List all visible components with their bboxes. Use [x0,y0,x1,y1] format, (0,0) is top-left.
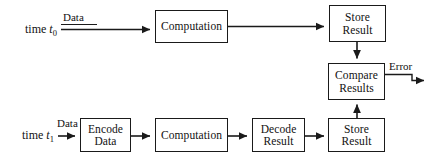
node-compare-results-label-2: Results [339,82,374,95]
label-time-t0-sub: 0 [53,28,57,38]
label-error-text: Error [389,60,412,72]
node-bottom-computation: Computation [155,118,228,152]
node-compare-results-label-1: Compare [335,69,378,82]
flow-diagram: Computation --> Store Result --> Compare… [0,0,433,165]
node-bottom-computation-label: Computation [161,129,222,142]
node-decode-result: Decode Result [252,118,305,152]
node-decode-result-label-1: Decode [261,123,297,136]
node-top-store-result-label-1: Store [345,11,370,24]
node-top-computation: Computation [155,10,228,43]
node-top-computation-label: Computation [161,20,222,33]
label-data-bottom: Data [57,117,78,129]
label-time-t1-prefix: time [22,128,46,142]
node-compare-results: Compare Results [328,63,385,100]
node-encode-data: Encode Data [80,118,131,152]
label-error: Error [389,60,412,72]
node-top-store-result-label-2: Result [343,24,373,37]
node-decode-result-label-2: Result [264,135,294,148]
node-bottom-store-result-label-1: Store [344,123,369,136]
label-data-bottom-text: Data [57,117,78,129]
node-top-store-result: Store Result [329,5,386,42]
label-time-t1-sub: 1 [50,134,54,144]
node-encode-data-label-2: Data [94,135,116,148]
label-time-t0-prefix: time [25,22,49,36]
node-encode-data-label-1: Encode [88,123,123,136]
label-data-top: Data [63,11,84,23]
label-time-t1: time t1 [22,129,54,146]
node-bottom-store-result: Store Result [328,118,385,152]
edge-t0-to-computation [61,25,150,30]
edge-compare-to-error [385,75,424,81]
label-data-top-text: Data [63,11,84,23]
node-bottom-store-result-label-2: Result [342,135,372,148]
label-time-t0: time t0 [25,23,57,40]
